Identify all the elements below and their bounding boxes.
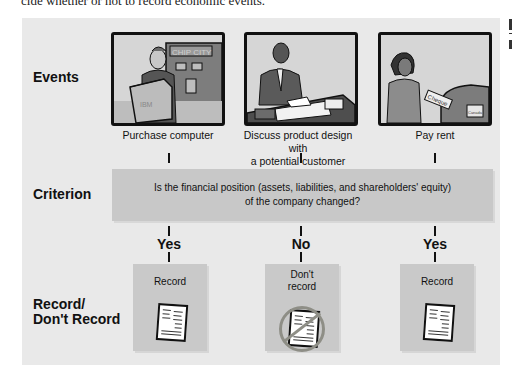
event-caption-1: Purchase computer (100, 129, 236, 142)
row-label-record-line1: Record/ (33, 297, 120, 312)
criterion-line2: of the company changed? (154, 195, 451, 209)
row-label-events: Events (33, 70, 79, 85)
edge-mark (509, 19, 512, 30)
outcome-label: Record (133, 276, 207, 288)
answer-yes-2: Yes (415, 236, 455, 252)
connector-line (434, 252, 436, 262)
connector-line (168, 226, 170, 236)
connector-line (300, 153, 302, 163)
edge-mark (509, 40, 512, 49)
intro-text: cide whether or not to record economic e… (21, 0, 265, 9)
connector-line (434, 226, 436, 236)
connector-line (300, 226, 302, 236)
connector-line (434, 153, 436, 163)
row-label-record-line2: Don't Record (33, 312, 120, 327)
outcome-card-dont-record: Don't record (265, 264, 339, 351)
answer-no: No (281, 236, 321, 252)
chip-city-sign: CHIP CITY (172, 48, 212, 57)
criterion-line1: Is the financial position (assets, liabi… (154, 181, 451, 195)
event-caption-2: Discuss product design with a potential … (236, 129, 360, 168)
woman-mailing-cheque-illustration: Canada Cheque (381, 35, 489, 123)
connector-line (300, 252, 302, 262)
event-image-discuss-design (244, 32, 358, 126)
outcome-card-record-1: Record (133, 264, 207, 351)
connector-line (168, 252, 170, 262)
ibm-box-label: IBM (140, 101, 153, 108)
event-image-purchase-computer: CHIP CITY IBM (111, 32, 225, 126)
row-label-criterion: Criterion (33, 187, 91, 202)
row-label-record: Record/ Don't Record (33, 297, 120, 327)
document-icon (156, 303, 189, 342)
event-image-pay-rent: Canada Cheque (378, 32, 492, 126)
mailbox-label: Canada (468, 110, 483, 115)
outcome-label: Record (400, 276, 474, 288)
man-carrying-box-illustration: CHIP CITY IBM (114, 35, 222, 123)
criterion-box: Is the financial position (assets, liabi… (112, 169, 493, 221)
event-caption-3: Pay rent (378, 129, 492, 142)
outcome-label: Don't record (265, 269, 339, 293)
answer-yes-1: Yes (149, 236, 189, 252)
edge-mark (509, 33, 512, 34)
outcome-card-record-2: Record (400, 264, 474, 351)
document-icon (423, 303, 456, 342)
man-on-phone-illustration (247, 35, 355, 123)
connector-line (168, 153, 170, 163)
